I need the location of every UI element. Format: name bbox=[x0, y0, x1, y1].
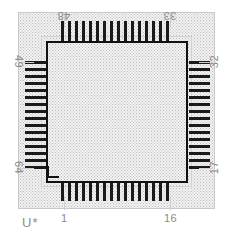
pad-left bbox=[25, 145, 46, 148]
pad-right bbox=[189, 89, 210, 92]
pad-left bbox=[25, 82, 46, 85]
pad-bottom bbox=[75, 180, 78, 201]
pad-right bbox=[189, 124, 210, 127]
pad-top bbox=[138, 21, 141, 42]
pad-bottom bbox=[166, 180, 169, 201]
pin-label-33: 33 bbox=[163, 10, 176, 21]
pad-bottom bbox=[110, 180, 113, 201]
pin-label-32: 32 bbox=[209, 55, 220, 68]
pad-bottom bbox=[117, 180, 120, 201]
pad-left bbox=[25, 96, 46, 99]
pad-bottom bbox=[103, 180, 106, 201]
pad-left bbox=[25, 75, 46, 78]
pad-left bbox=[25, 159, 46, 162]
reference-designator: U* bbox=[22, 215, 38, 230]
leader-tick-bottom-right bbox=[170, 196, 171, 210]
pad-top bbox=[68, 21, 71, 42]
leader-tick-bottom-left bbox=[64, 196, 65, 210]
pin-label-16: 16 bbox=[164, 213, 177, 224]
pad-right bbox=[189, 138, 210, 141]
pad-top bbox=[103, 21, 106, 42]
pad-right bbox=[189, 75, 210, 78]
footprint-diagram: 48 33 32 17 16 1 64 49 U* bbox=[0, 0, 235, 243]
pad-right bbox=[189, 159, 210, 162]
pad-left bbox=[25, 152, 46, 155]
pad-left bbox=[25, 131, 46, 134]
pad-bottom bbox=[152, 180, 155, 201]
pad-left bbox=[25, 103, 46, 106]
pad-top bbox=[110, 21, 113, 42]
pad-top bbox=[159, 21, 162, 42]
pad-bottom bbox=[96, 180, 99, 201]
pad-left bbox=[25, 110, 46, 113]
pin-label-64: 64 bbox=[13, 161, 24, 174]
pad-right bbox=[189, 103, 210, 106]
pad-top bbox=[124, 21, 127, 42]
pad-left bbox=[25, 89, 46, 92]
pad-bottom bbox=[82, 180, 85, 201]
pad-left bbox=[25, 138, 46, 141]
pin1-corner-marker bbox=[47, 166, 59, 178]
pad-left bbox=[25, 117, 46, 120]
pad-bottom bbox=[124, 180, 127, 201]
package-body-outline bbox=[46, 41, 188, 183]
pin-label-1: 1 bbox=[61, 213, 68, 224]
pad-right bbox=[189, 131, 210, 134]
pad-top bbox=[131, 21, 134, 42]
pad-bottom bbox=[68, 180, 71, 201]
pin-label-49: 49 bbox=[13, 55, 24, 68]
pad-top bbox=[96, 21, 99, 42]
pad-right bbox=[189, 110, 210, 113]
pad-top bbox=[75, 21, 78, 42]
pad-bottom bbox=[159, 180, 162, 201]
pad-bottom bbox=[89, 180, 92, 201]
pad-top bbox=[166, 21, 169, 42]
pin-label-17: 17 bbox=[209, 161, 220, 174]
pad-left bbox=[25, 68, 46, 71]
pad-top bbox=[82, 21, 85, 42]
pad-bottom bbox=[131, 180, 134, 201]
pad-right bbox=[189, 145, 210, 148]
pad-left bbox=[25, 124, 46, 127]
pad-right bbox=[189, 117, 210, 120]
pad-top bbox=[117, 21, 120, 42]
pad-right bbox=[189, 152, 210, 155]
pad-right bbox=[189, 68, 210, 71]
pad-bottom bbox=[145, 180, 148, 201]
pad-top bbox=[152, 21, 155, 42]
pad-top bbox=[89, 21, 92, 42]
pad-right bbox=[189, 96, 210, 99]
pad-bottom bbox=[138, 180, 141, 201]
pad-top bbox=[145, 21, 148, 42]
pad-right bbox=[189, 82, 210, 85]
pin-label-48: 48 bbox=[57, 10, 70, 21]
